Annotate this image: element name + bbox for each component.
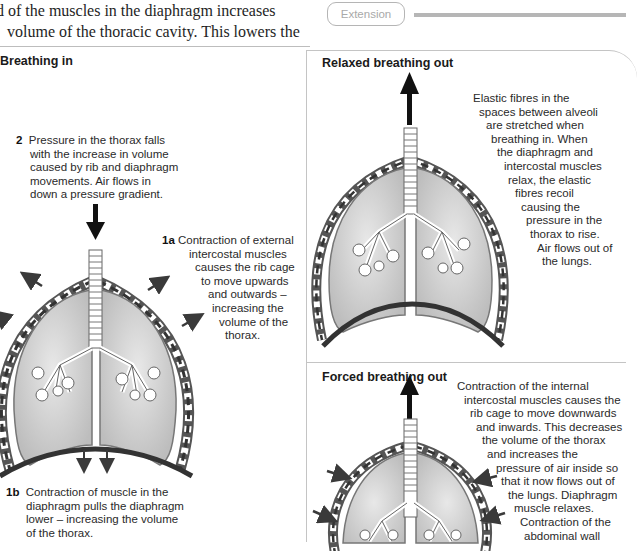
airflow-up-arrow-icon bbox=[400, 72, 419, 125]
extension-badge: Extension bbox=[327, 2, 405, 26]
extension-rule bbox=[414, 13, 626, 17]
diaphragm-down-arrows-icon bbox=[84, 450, 107, 466]
airflow-down-arrow-icon bbox=[86, 204, 105, 240]
lungs-relaxed-exhale-diagram bbox=[307, 50, 626, 362]
lungs-inhale-diagram bbox=[0, 0, 306, 542]
airflow-up-arrow-icon bbox=[400, 375, 419, 419]
lungs-forced-exhale-diagram bbox=[307, 363, 626, 542]
